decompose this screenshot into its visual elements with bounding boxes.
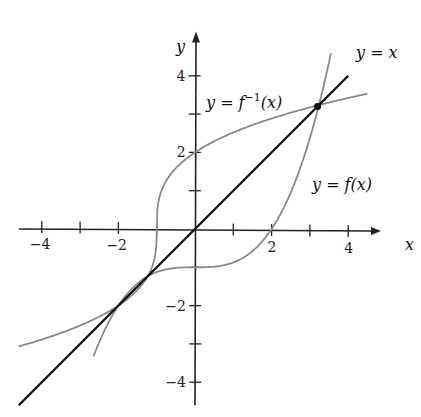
label-f-inverse: y = f−1(x)	[205, 91, 282, 112]
label-f-inverse-tail: (x)	[261, 93, 283, 112]
label-f-inverse-sup: −1	[245, 91, 261, 104]
inverse-function-graph: −4−224−4−224 x y y = f−1(x) y = f(x) y =…	[0, 0, 421, 417]
y-tick-label: −2	[165, 298, 186, 314]
y-axis-label: y	[175, 37, 186, 56]
x-tick-label: −4	[30, 236, 51, 252]
x-tick-label: 2	[268, 239, 277, 255]
axes: −4−224−4−224	[19, 32, 381, 406]
x-tick-label: 4	[344, 240, 353, 256]
y-tick-label: 4	[177, 68, 186, 84]
y-axis-arrow	[192, 32, 200, 43]
x-axis-label: x	[405, 235, 414, 254]
y-axis-line	[195, 42, 196, 406]
x-axis-arrow	[371, 227, 381, 235]
curve-f-inverse	[19, 94, 368, 347]
intersection-point	[314, 103, 321, 110]
y-tick-label: 2	[177, 144, 186, 160]
label-identity: y = x	[355, 43, 398, 62]
label-f: y = f(x)	[311, 175, 372, 194]
x-tick-label: −2	[106, 237, 127, 253]
line-y-equals-x	[19, 76, 348, 405]
labels: x y y = f−1(x) y = f(x) y = x	[175, 37, 414, 254]
y-tick-label: −4	[165, 374, 186, 390]
label-f-inverse-main: y = f	[205, 93, 248, 112]
